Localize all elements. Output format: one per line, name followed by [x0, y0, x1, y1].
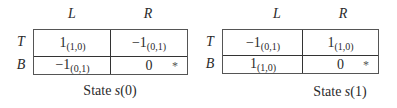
- payoff-value: 1: [250, 56, 257, 71]
- payoff-value: 0: [337, 57, 344, 72]
- column-label-L: L: [68, 6, 76, 22]
- payoff-subscript: (0,1): [147, 41, 166, 52]
- payoff-subscript: (1,0): [66, 41, 85, 52]
- row-label-B: B: [17, 57, 26, 73]
- payoff-value: 0: [146, 58, 153, 73]
- cell-T-R: 1(1,0): [302, 30, 378, 56]
- payoff-subscript: (0,1): [70, 63, 89, 74]
- cell-T-L: −1(0,1): [223, 30, 303, 56]
- state-caption: State s(0): [83, 83, 136, 99]
- state-caption: State s(1): [313, 84, 366, 100]
- cell-T-L: 1(1,0): [34, 30, 111, 56]
- payoff-subscript: (0,1): [261, 41, 280, 52]
- column-label-L: L: [273, 6, 281, 22]
- equilibrium-star-icon: *: [363, 58, 369, 73]
- row-label-T: T: [17, 34, 25, 50]
- payoff-matrix: −1(0,1) 1(1,0) 1(1,0) 0 *: [222, 29, 379, 74]
- payoff-subscript: (1,0): [334, 41, 353, 52]
- equilibrium-star-icon: *: [172, 59, 178, 74]
- payoff-value: −1: [55, 57, 70, 72]
- column-label-R: R: [339, 6, 348, 22]
- row-label-B: B: [206, 56, 215, 72]
- cell-B-R: 0 *: [110, 56, 187, 74]
- payoff-subscript: (1,0): [257, 62, 276, 73]
- payoff-value: −1: [132, 35, 147, 50]
- cell-B-L: 1(1,0): [223, 55, 303, 73]
- cell-B-L: −1(0,1): [34, 56, 111, 74]
- row-label-T: T: [206, 34, 214, 50]
- payoff-matrix: 1(1,0) −1(0,1) −1(0,1) 0 *: [33, 29, 188, 75]
- cell-T-R: −1(0,1): [110, 30, 187, 56]
- cell-B-R: 0 *: [302, 55, 378, 73]
- column-label-R: R: [144, 6, 153, 22]
- payoff-value: −1: [246, 35, 261, 50]
